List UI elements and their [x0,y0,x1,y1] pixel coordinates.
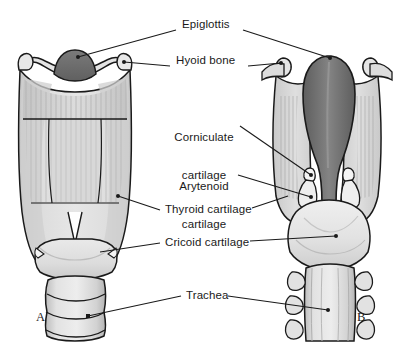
panel-label-a: A [36,310,45,325]
cricoid-cartilage-shape-b [288,200,370,270]
leader-dot-trachea-a [86,314,90,318]
tracheal-ring-end-l1 [288,272,306,290]
hyoid-bone-right-b [370,63,392,80]
leader-dot-trachea-b [326,308,330,312]
thyroid-wing-left-striations [26,120,50,202]
label-arytenoid-line1: Arytenoid [166,180,242,193]
label-epiglottis: Epiglottis [182,18,230,31]
label-cricoid-cartilage: Cricoid cartilage [165,236,249,249]
leader-dot-epiglottis-b [328,56,332,60]
leader-dot-epiglottis-a [76,55,80,59]
larynx-diagram: Epiglottis Hyoid bone Corniculate cartil… [0,0,408,347]
hyoid-greater-horn-left [18,53,33,70]
tracheal-ring-end-r1 [355,272,373,290]
leader-dot-hyoid-b [279,61,283,65]
label-arytenoid-line2: cartilage [166,218,242,231]
leader-epiglottis-a [78,30,176,57]
trachea-shape-a [46,276,106,341]
hyoid-bone-shape-b [262,63,284,80]
panel-label-b: B [357,310,365,325]
leader-dot-arytenoid [309,195,313,199]
leader-dot-corniculate [309,173,313,177]
median-band-striations [50,118,100,202]
tracheal-ring-end-l3 [286,320,304,339]
label-thyroid-cartilage: Thyroid cartilage [165,203,252,216]
leader-dot-cricoid-b [334,234,338,238]
label-corniculate-line1: Corniculate [166,131,242,144]
label-trachea: Trachea [186,289,228,302]
leader-dot-thyroid-a [116,194,120,198]
leader-epiglottis-b [243,30,330,58]
epiglottis-shape-a [54,50,96,81]
larynx-view-anterior [18,50,132,341]
leader-dot-hyoid-a [122,60,126,64]
thyroid-wing-right-striations [100,120,124,202]
label-hyoid-bone: Hyoid bone [176,54,235,67]
